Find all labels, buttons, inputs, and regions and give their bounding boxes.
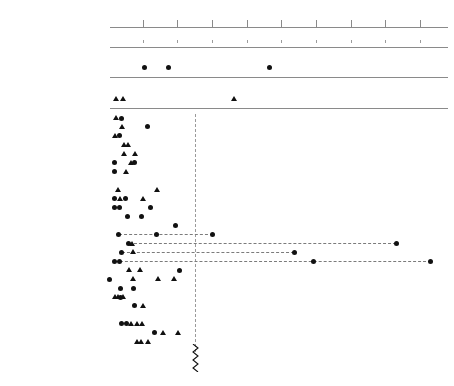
data-point-circle (394, 241, 399, 246)
chart-canvas (0, 0, 454, 386)
data-point-triangle (160, 330, 166, 335)
data-point-circle (117, 133, 122, 138)
data-point-triangle (155, 276, 161, 281)
data-point-triangle (137, 267, 143, 272)
data-point-triangle (128, 160, 134, 165)
data-point-triangle (138, 339, 144, 344)
data-point-triangle (145, 339, 151, 344)
row-dash-connector (115, 261, 431, 262)
axis-minor-tick (143, 40, 144, 43)
data-point-triangle (139, 321, 145, 326)
data-point-circle (118, 286, 123, 291)
data-point-circle (428, 259, 433, 264)
data-point-triangle (113, 115, 119, 120)
data-point-circle (112, 160, 117, 165)
axis-minor-tick (385, 40, 386, 43)
data-point-circle (132, 303, 137, 308)
data-point-circle (152, 330, 157, 335)
data-point-triangle (130, 249, 136, 254)
data-point-triangle (140, 196, 146, 201)
data-point-circle (154, 232, 159, 237)
data-point-triangle (125, 142, 131, 147)
data-point-circle (119, 116, 124, 121)
data-point-triangle (117, 196, 123, 201)
data-point-circle (125, 214, 130, 219)
axis-minor-tick (351, 40, 352, 43)
data-point-circle (311, 259, 316, 264)
data-point-triangle (126, 267, 132, 272)
data-point-circle (148, 205, 153, 210)
row-dash-connector (119, 234, 213, 235)
data-point-circle (116, 232, 121, 237)
row-dash-connector (129, 243, 397, 244)
reference-point-circle (267, 65, 272, 70)
data-point-circle (177, 268, 182, 273)
data-point-circle (131, 286, 136, 291)
data-point-circle (173, 223, 178, 228)
scale-top-rule (110, 27, 448, 28)
axis-tick (143, 20, 144, 27)
data-point-circle (139, 214, 144, 219)
reference-point-circle (166, 65, 171, 70)
reference-point-triangle (231, 96, 237, 101)
data-point-triangle (115, 187, 121, 192)
axis-minor-tick (177, 40, 178, 43)
reference-point-circle (142, 65, 147, 70)
reference-point-triangle (113, 96, 119, 101)
threshold-line (195, 114, 196, 352)
data-point-circle (145, 124, 150, 129)
data-point-triangle (121, 151, 127, 156)
data-point-triangle (154, 187, 160, 192)
data-point-circle (107, 277, 112, 282)
data-point-circle (117, 205, 122, 210)
panel-rule-bottom (110, 108, 448, 109)
axis-tick (385, 20, 386, 27)
axis-tick (351, 20, 352, 27)
data-point-triangle (140, 303, 146, 308)
data-point-circle (292, 250, 297, 255)
panel-rule-top (110, 47, 448, 48)
reference-point-triangle (120, 96, 126, 101)
data-point-triangle (112, 133, 118, 138)
data-point-triangle (120, 294, 126, 299)
data-point-triangle (132, 151, 138, 156)
axis-minor-tick (420, 40, 421, 43)
data-point-triangle (171, 276, 177, 281)
axis-tick (316, 20, 317, 27)
data-point-circle (210, 232, 215, 237)
panel-rule-top (110, 77, 448, 78)
data-point-circle (112, 169, 117, 174)
axis-minor-tick (212, 40, 213, 43)
axis-minor-tick (247, 40, 248, 43)
axis-minor-tick (281, 40, 282, 43)
axis-tick (247, 20, 248, 27)
row-dash-connector (122, 252, 295, 253)
axis-tick (420, 20, 421, 27)
zigzag-divider-icon (191, 344, 200, 372)
data-point-triangle (130, 276, 136, 281)
axis-minor-tick (316, 40, 317, 43)
axis-tick (281, 20, 282, 27)
data-point-triangle (123, 169, 129, 174)
data-point-circle (119, 250, 124, 255)
data-point-triangle (119, 124, 125, 129)
axis-tick (212, 20, 213, 27)
data-point-triangle (129, 241, 135, 246)
data-point-circle (123, 196, 128, 201)
data-point-triangle (175, 330, 181, 335)
data-point-circle (117, 259, 122, 264)
axis-tick (177, 20, 178, 27)
